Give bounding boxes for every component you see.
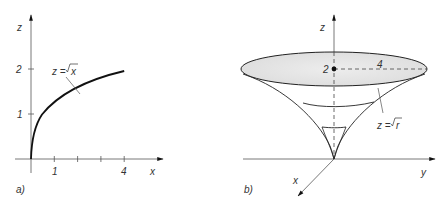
surface-inner-right (334, 127, 346, 159)
figure-canvas: z x 1 4 2 1 z = x a) (0, 0, 445, 209)
x-axis-3d (298, 159, 334, 196)
surface-right-profile (334, 74, 425, 159)
sqrt-curve (31, 71, 124, 159)
center-height-label: 2 (322, 64, 329, 75)
surface-inner-left (322, 127, 334, 159)
z-axis-label: z (16, 22, 22, 33)
level-curve-low (322, 127, 346, 128)
disc-center-point (332, 67, 337, 72)
z-tick-label-2: 2 (15, 64, 22, 75)
radius-label: 4 (377, 59, 383, 70)
panel-b: z 2 4 y x z = r b) (241, 15, 435, 196)
surface-equation-label: z = r (376, 118, 402, 131)
curve-equation-label: z = x (51, 64, 78, 77)
surface-left-profile (243, 74, 334, 159)
x-tick-label-4: 4 (121, 166, 127, 177)
y-axis-label-3d: y (420, 167, 427, 178)
svg-text:z =: z = (51, 66, 66, 77)
z-axis-label-3d: z (319, 22, 325, 33)
panel-a: z x 1 4 2 1 z = x a) (15, 15, 163, 195)
x-axis-label-3d: x (292, 175, 299, 186)
z-tick-label-1: 1 (17, 109, 23, 120)
svg-text:x: x (70, 66, 77, 77)
surface-leader-line (378, 88, 383, 113)
level-curve-mid (303, 102, 374, 107)
x-axis-label: x (149, 166, 156, 177)
svg-text:r: r (396, 120, 400, 131)
panel-b-label: b) (244, 184, 253, 195)
panel-a-label: a) (16, 184, 25, 195)
x-tick-label-1: 1 (52, 166, 58, 177)
svg-text:z =: z = (376, 120, 391, 131)
